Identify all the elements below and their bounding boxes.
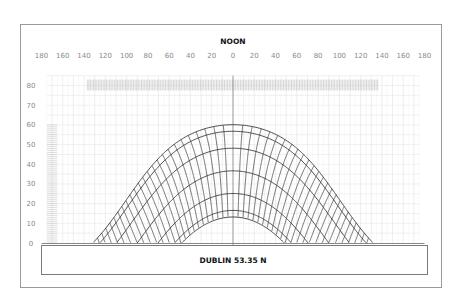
azimuth-tick-label: 160: [56, 52, 69, 60]
azimuth-tick-label: 20: [250, 52, 259, 60]
azimuth-tick-label: 180: [418, 52, 431, 60]
azimuth-tick-label: 60: [165, 52, 174, 60]
azimuth-tick-label: 40: [271, 52, 280, 60]
azimuth-tick-label: 140: [375, 52, 388, 60]
altitude-tick-label: 70: [27, 102, 36, 110]
altitude-tick-label: 10: [27, 220, 36, 228]
altitude-tick-labels: 80706050403020100: [27, 82, 36, 248]
sun-path-diagram: 1801601401201008060402002040608010012014…: [0, 0, 463, 304]
altitude-tick-label: 30: [27, 180, 36, 188]
azimuth-tick-label: 40: [186, 52, 195, 60]
azimuth-tick-label: 60: [292, 52, 301, 60]
azimuth-tick-label: 80: [314, 52, 323, 60]
azimuth-tick-label: 140: [77, 52, 90, 60]
altitude-tick-label: 20: [27, 200, 36, 208]
altitude-tick-label: 40: [27, 161, 36, 169]
azimuth-tick-label: 120: [354, 52, 367, 60]
azimuth-tick-label: 160: [397, 52, 410, 60]
azimuth-tick-label: 0: [231, 52, 235, 60]
azimuth-tick-label: 20: [207, 52, 216, 60]
azimuth-tick-label: 120: [99, 52, 112, 60]
azimuth-tick-label: 100: [333, 52, 346, 60]
chart-title: NOON: [220, 37, 245, 46]
altitude-tick-label: 0: [29, 240, 33, 248]
azimuth-tick-label: 180: [35, 52, 48, 60]
azimuth-tick-label: 80: [143, 52, 152, 60]
location-caption: DUBLIN 53.35 N: [199, 256, 266, 265]
altitude-tick-label: 60: [27, 121, 36, 129]
altitude-tick-label: 80: [27, 82, 36, 90]
azimuth-tick-label: 100: [120, 52, 133, 60]
altitude-tick-label: 50: [27, 141, 36, 149]
